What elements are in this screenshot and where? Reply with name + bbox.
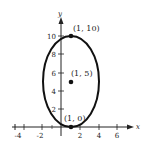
- y-tick-label: 4: [52, 88, 57, 96]
- y-tick-label: 8: [52, 51, 56, 59]
- x-tick-label: 2: [78, 132, 82, 140]
- y-axis-label: y: [57, 10, 63, 18]
- point-center: (1, 5): [69, 69, 93, 84]
- point-label: (1, 5): [71, 69, 93, 78]
- ellipse-graph: x -4 -2 2 4 6 y 2 4 6 8 10 (1, 10): [0, 0, 143, 145]
- point-marker-icon: [69, 125, 74, 130]
- point-label: (1, 10): [73, 24, 100, 33]
- y-tick-label: 6: [52, 70, 57, 78]
- x-tick-label: 4: [97, 132, 102, 140]
- point-label: (1, 0): [64, 114, 86, 123]
- point-marker-icon: [69, 80, 74, 85]
- point-marker-icon: [69, 34, 74, 39]
- x-tick-label: 6: [115, 132, 120, 140]
- x-tick-label: -2: [37, 132, 44, 140]
- y-tick-label: 10: [47, 33, 56, 41]
- y-axis-arrow-icon: [59, 17, 64, 24]
- y-tick-label: 2: [52, 106, 56, 114]
- x-axis-label: x: [136, 123, 140, 131]
- y-axis: y 2 4 6 8 10: [47, 10, 64, 136]
- x-axis-arrow-icon: [127, 125, 134, 130]
- x-tick-label: -4: [15, 132, 22, 140]
